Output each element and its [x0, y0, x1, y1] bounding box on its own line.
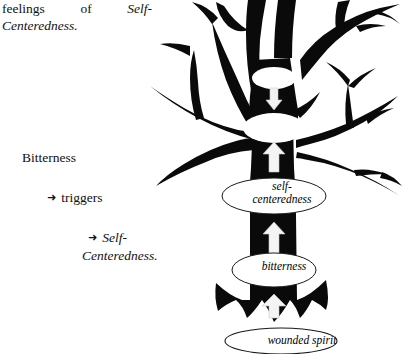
chain-item-self-label: Self- [102, 230, 127, 246]
empty-node-middle [243, 113, 305, 143]
chain-item-self-label-continued: Centeredness. [82, 248, 158, 264]
chain-item-triggers-label: triggers [61, 190, 102, 206]
arrow-right-icon: ➜ [88, 232, 97, 243]
wounded-spirit-node [225, 328, 337, 354]
paragraph-word-of: of [80, 1, 91, 17]
paragraph-word-feelings: feelings [2, 1, 45, 17]
empty-node-upper [252, 67, 296, 89]
paragraph-line-2: Centeredness. [2, 18, 78, 34]
chain-item-triggers: ➜ triggers [47, 190, 102, 206]
chain-root-bitterness: Bitterness [22, 150, 76, 166]
tree-silhouette-graphic [150, 0, 404, 354]
self-centeredness-node [222, 178, 326, 214]
tree-diagram [150, 0, 404, 354]
arrow-right-icon: ➜ [47, 192, 56, 203]
chain-item-self-centeredness: ➜ Self- [88, 230, 127, 246]
paragraph-word-self: Self- [127, 1, 152, 17]
bitterness-node [232, 253, 316, 287]
paragraph-line-1: feelings of Self- [2, 1, 152, 17]
